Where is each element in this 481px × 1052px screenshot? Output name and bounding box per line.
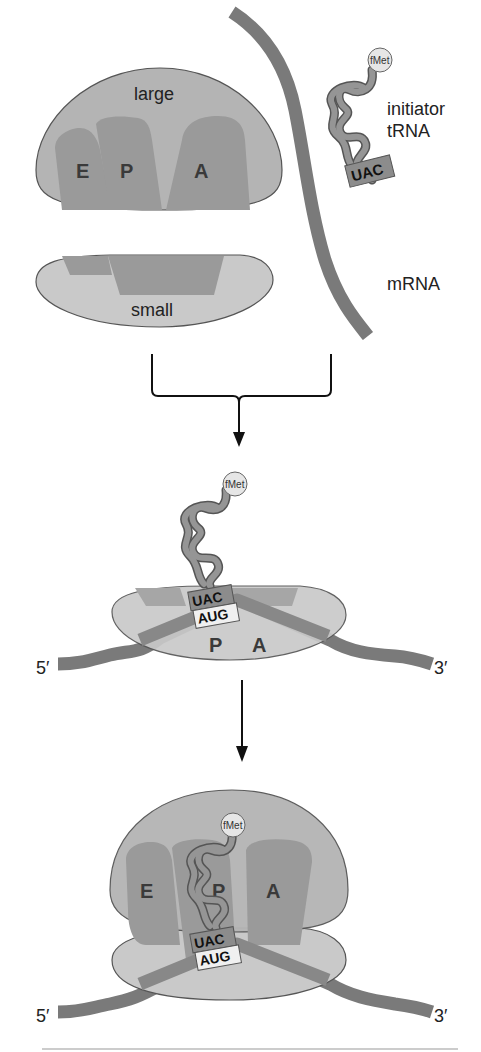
three-prime-label-2: 3′ xyxy=(434,658,448,678)
site-label-p: P xyxy=(120,160,133,182)
small-subunit: small xyxy=(36,255,273,327)
fmet-label-3: fMet xyxy=(223,820,243,831)
site-label-a-3: A xyxy=(266,880,280,902)
three-prime-label-3: 3′ xyxy=(434,1006,448,1026)
combine-arrow xyxy=(152,354,331,447)
trna-label-line2: tRNA xyxy=(387,121,430,141)
site-label-a-2: A xyxy=(252,634,266,656)
translation-initiation-diagram: E P A large small mRNA UAC fM xyxy=(0,0,481,1052)
site-label-p-2: P xyxy=(209,634,222,656)
fmet-label: fMet xyxy=(370,55,390,66)
assembly-arrow xyxy=(236,680,248,762)
stage-2-initiation-complex: P A UAC AUG fMet 5′ 3′ xyxy=(36,472,448,678)
stage-3-complete-ribosome: E P A UAC AUG fMet 5′ 3′ xyxy=(36,790,448,1026)
site-label-e-3: E xyxy=(140,880,153,902)
five-prime-label-3: 5′ xyxy=(36,1006,50,1026)
fmet-label-2: fMet xyxy=(225,479,245,490)
mrna-label: mRNA xyxy=(387,274,440,294)
site-label-e: E xyxy=(76,160,89,182)
large-subunit-label: large xyxy=(134,84,174,104)
trna-label-line1: initiator xyxy=(387,99,445,119)
small-subunit-label: small xyxy=(131,300,173,320)
initiator-trna: UAC fMet xyxy=(331,48,395,187)
large-subunit: E P A large xyxy=(36,68,282,210)
stage-1-separate-components: E P A large small mRNA UAC fM xyxy=(36,12,445,336)
five-prime-label-2: 5′ xyxy=(36,658,50,678)
site-label-a: A xyxy=(194,160,208,182)
